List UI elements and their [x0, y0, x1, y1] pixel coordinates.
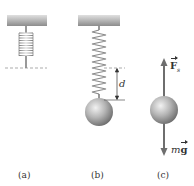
caption-a: (a)	[18, 170, 30, 180]
mass-sphere	[150, 96, 178, 124]
mass-symbol: m	[171, 144, 180, 155]
displacement-label: d	[119, 78, 125, 89]
caption-b: (b)	[91, 170, 104, 180]
force-symbol: F	[170, 60, 177, 71]
arrowhead-up-icon	[161, 58, 168, 66]
panel-b	[78, 15, 125, 126]
arrowhead-down-icon	[161, 148, 168, 156]
ceiling-block	[7, 15, 47, 26]
stretched-spring	[92, 30, 106, 94]
gravity-symbol: g	[180, 144, 187, 155]
mass-sphere	[85, 98, 113, 126]
spring-force-label: Fs	[170, 60, 180, 73]
weight-label: mg	[171, 144, 187, 155]
caption-c: (c)	[157, 170, 169, 180]
spring-mass-diagram	[0, 0, 194, 186]
force-subscript: s	[177, 66, 180, 73]
compressed-spring	[19, 33, 33, 56]
panel-a	[5, 15, 47, 68]
ceiling-block	[78, 15, 120, 26]
